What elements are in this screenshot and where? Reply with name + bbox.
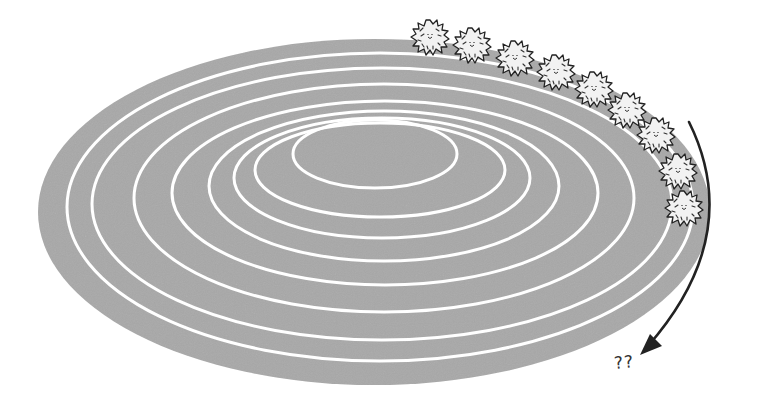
- arrowhead-icon: [640, 334, 662, 355]
- track-diagram: [0, 0, 770, 407]
- question-label: ??: [613, 351, 635, 373]
